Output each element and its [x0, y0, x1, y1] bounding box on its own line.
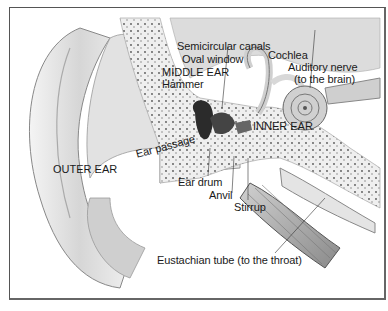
label-auditory-nerve-note: (to the brain)	[294, 73, 355, 85]
label-eustachian-tube: Eustachian tube (to the throat)	[157, 254, 302, 266]
label-oval-window: Oval window	[182, 53, 243, 65]
label-outer-ear: OUTER EAR	[53, 163, 117, 175]
label-middle-ear: MIDDLE EAR	[162, 66, 229, 78]
label-ear-drum: Ear drum	[178, 176, 222, 188]
label-semicircular-canals: Semicircular canals	[177, 40, 270, 52]
label-anvil: Anvil	[209, 189, 232, 201]
label-inner-ear: INNER EAR	[253, 120, 313, 132]
diagram-frame: Semicircular canals Cochlea Oval window …	[9, 7, 386, 300]
label-auditory-nerve: Auditory nerve	[288, 61, 358, 73]
label-stirrup: Stirrup	[234, 201, 266, 213]
label-cochlea: Cochlea	[268, 49, 308, 61]
label-hammer: Hammer	[162, 78, 204, 90]
